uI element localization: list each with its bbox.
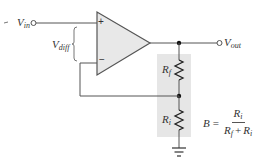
inverting-input-sign: − [99,55,105,65]
vdiff-label-sub: diff [59,43,70,52]
vout-label-base: V [224,36,231,48]
denominator-plus: + [235,124,241,136]
formula-denominator: Rf+Ri [222,123,254,138]
formula-lhs: B [203,117,210,129]
circuit-schematic [0,0,261,165]
denominator-term1-sub: f [231,129,233,138]
vin-label: Vin [17,17,30,30]
denominator-term2-sub: i [250,129,252,138]
rf-label: Rf [162,64,171,77]
denominator-term2-base: R [243,124,250,136]
rf-label-sub: f [169,68,171,77]
vdiff-brace-icon [72,27,77,61]
op-amp-circuit-diagram: + − Vin Vdiff Vout Rf Ri B = Ri Rf+Ri [0,0,261,165]
rf-label-base: R [162,63,169,75]
numerator-sub: i [240,112,242,121]
vin-label-sub: in [24,21,30,30]
vdiff-label-base: V [52,38,59,50]
leading-mark [4,22,8,23]
formula-numerator: Ri [232,107,245,123]
formula-equals: = [213,117,219,129]
ground-icon [172,148,186,156]
feedback-fraction-formula: B = Ri Rf+Ri [203,107,254,138]
vout-label-sub: out [231,41,241,50]
vin-terminal-icon [31,21,36,26]
denominator-term1-base: R [224,124,231,136]
ri-label: Ri [162,114,171,127]
noninverting-input-sign: + [98,17,104,27]
ri-label-base: R [162,113,169,125]
vout-terminal-icon [217,41,222,46]
op-amp-triangle-icon [97,12,150,75]
vout-label: Vout [224,37,241,50]
formula-fraction: Ri Rf+Ri [222,107,254,138]
vin-label-base: V [17,16,24,28]
ri-label-sub: i [169,118,171,127]
vdiff-label: Vdiff [52,39,69,52]
